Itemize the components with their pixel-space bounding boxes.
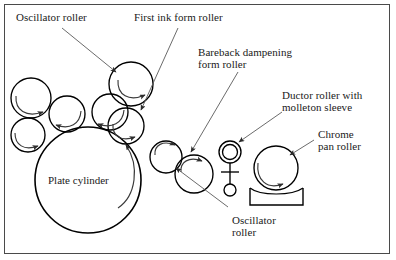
callout-line-bareback-form-roller (191, 72, 238, 152)
part-roller-oscillator-br (150, 141, 182, 173)
rotation-arrow-mid-left (56, 111, 81, 127)
label-oscillator-roller-top: Oscillator roller (16, 11, 87, 24)
label-chrome-pan-roller-line1: Chrome (318, 128, 354, 141)
part-roller-chrome-pan (254, 146, 298, 190)
part-roller-top (109, 62, 153, 106)
part-roller-mid (92, 94, 128, 130)
label-plate-cylinder: Plate cylinder (48, 174, 109, 186)
rotation-arrow-oscillator-br (155, 143, 175, 155)
callout-line-oscillator-roller-top (62, 28, 116, 72)
rotation-arrow-plate-cylinder (118, 145, 134, 208)
label-first-ink-form-roller: First ink form roller (134, 11, 223, 24)
label-oscillator-roller-bottom-line1: Oscillator (232, 214, 276, 227)
label-oscillator-roller-bottom-line2: roller (232, 226, 256, 239)
label-chrome-pan-roller-line2: pan roller (318, 140, 361, 153)
part-roller-ductor-inner (223, 145, 238, 160)
ink-pan-surface (250, 188, 303, 194)
diagram-canvas: Oscillator roller First ink form roller … (0, 0, 396, 260)
rotation-arrow-upper-left (16, 96, 43, 114)
rotation-arrow-lower-left (15, 133, 38, 148)
ductor-pivot-ball (224, 184, 236, 196)
part-roller-lower-left (11, 118, 45, 152)
rotation-arrow-top (118, 80, 145, 98)
part-roller-bareback (175, 155, 213, 193)
label-ductor-roller-line1: Ductor roller with (282, 89, 362, 102)
callout-line-ductor-roller (239, 112, 282, 142)
callout-line-oscillator-roller-bottom (176, 168, 228, 207)
label-bareback-dampening-form-roller-line1: Bareback dampening (198, 46, 292, 59)
rotation-arrow-mid (98, 110, 124, 126)
rotation-arrow-chrome-pan (258, 163, 283, 186)
label-ductor-roller-line2: molleton sleeve (282, 101, 352, 114)
rotation-arrow-first-ink-form (113, 124, 135, 139)
rotation-arrow-bareback (181, 159, 202, 172)
callout-line-chrome-pan-roller (290, 140, 314, 155)
label-bareback-dampening-form-roller-line2: form roller (198, 58, 247, 71)
part-roller-upper-left (11, 78, 51, 118)
